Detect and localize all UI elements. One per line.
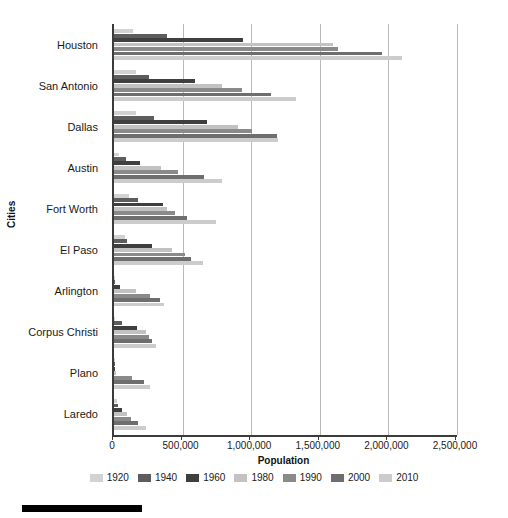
bar-houston-2010	[114, 56, 402, 60]
bar-fort-worth-1960	[114, 203, 163, 207]
bar-laredo-1990	[114, 417, 131, 421]
x-tick-label: 2,000,000	[364, 440, 409, 451]
bar-austin-2000	[114, 175, 204, 179]
y-axis-label-laredo: Laredo	[64, 408, 98, 420]
bar-fort-worth-1940	[114, 198, 138, 202]
bar-houston-2000	[114, 52, 382, 56]
bar-el-paso-1980	[114, 248, 172, 252]
bar-houston-1920	[114, 29, 133, 33]
bar-group-el-paso	[114, 230, 457, 271]
bar-dallas-1920	[114, 111, 136, 115]
y-axis-label-el-paso: El Paso	[60, 244, 98, 256]
bar-austin-1920	[114, 153, 119, 157]
plot-area	[112, 24, 457, 437]
bar-el-paso-1920	[114, 235, 125, 239]
bar-group-austin	[114, 147, 457, 188]
legend-swatch-icon	[283, 474, 296, 482]
bar-plano-1980	[114, 371, 116, 375]
y-axis-label-dallas: Dallas	[67, 121, 98, 133]
chart-legend: 1920194019601980199020002010	[0, 472, 508, 483]
bar-dallas-1940	[114, 116, 154, 120]
bar-fort-worth-1990	[114, 211, 175, 215]
y-axis-label-san-antonio: San Antonio	[39, 80, 98, 92]
x-tick-label: 500,000	[163, 440, 199, 451]
bar-fort-worth-1980	[114, 207, 167, 211]
bar-laredo-1920	[114, 399, 117, 403]
bar-houston-1980	[114, 43, 333, 47]
bar-corpus-christi-1940	[114, 321, 122, 325]
x-axis-ticks: 0500,0001,000,0001,500,0002,000,0002,500…	[0, 435, 508, 449]
x-axis-title: Population	[112, 455, 455, 466]
legend-swatch-icon	[234, 474, 247, 482]
legend-label: 1940	[155, 472, 177, 483]
bar-houston-1960	[114, 38, 243, 42]
bar-houston-1990	[114, 47, 338, 51]
bar-houston-1940	[114, 34, 167, 38]
x-tick-label: 1,500,000	[296, 440, 341, 451]
bar-el-paso-1990	[114, 253, 185, 257]
bar-arlington-2000	[114, 298, 160, 302]
bar-arlington-1990	[114, 294, 150, 298]
legend-label: 1980	[251, 472, 273, 483]
bar-arlington-1920	[114, 276, 115, 280]
bar-group-houston	[114, 24, 457, 65]
legend-item-1990[interactable]: 1990	[283, 472, 322, 483]
bar-corpus-christi-1960	[114, 326, 137, 330]
bar-el-paso-1940	[114, 239, 127, 243]
legend-swatch-icon	[331, 474, 344, 482]
bar-dallas-1960	[114, 120, 207, 124]
x-tick-label: 1,000,000	[227, 440, 272, 451]
bar-group-san-antonio	[114, 65, 457, 106]
legend-item-1960[interactable]: 1960	[186, 472, 225, 483]
bar-san-antonio-1940	[114, 75, 149, 79]
bar-plano-2000	[114, 380, 144, 384]
bar-group-plano	[114, 353, 457, 394]
bar-plano-2010	[114, 385, 150, 389]
legend-label: 2000	[348, 472, 370, 483]
x-tick-label: 2,500,000	[433, 440, 478, 451]
y-axis-label-arlington: Arlington	[55, 285, 98, 297]
bar-austin-2010	[114, 179, 222, 183]
y-axis-label-plano: Plano	[70, 367, 98, 379]
legend-swatch-icon	[186, 474, 199, 482]
bar-laredo-1980	[114, 412, 127, 416]
legend-swatch-icon	[90, 474, 103, 482]
y-axis-label-fort-worth: Fort Worth	[46, 203, 98, 215]
bar-fort-worth-2000	[114, 216, 187, 220]
legend-item-1940[interactable]: 1940	[138, 472, 177, 483]
legend-label: 2010	[396, 472, 418, 483]
population-bar-chart: Cities HoustonSan AntonioDallasAustinFor…	[0, 0, 508, 518]
bar-corpus-christi-2010	[114, 344, 156, 348]
bar-corpus-christi-1920	[114, 317, 115, 321]
y-axis-label-corpus-christi: Corpus Christi	[28, 326, 98, 338]
bar-arlington-2010	[114, 303, 164, 307]
bar-laredo-2010	[114, 426, 146, 430]
bar-san-antonio-1920	[114, 70, 136, 74]
bar-san-antonio-2010	[114, 97, 296, 101]
gridline-2500000	[457, 24, 458, 435]
legend-item-2010[interactable]: 2010	[379, 472, 418, 483]
bottom-rule	[22, 505, 142, 512]
bar-laredo-1940	[114, 404, 118, 408]
bar-group-dallas	[114, 106, 457, 147]
bar-corpus-christi-1990	[114, 335, 149, 339]
bar-san-antonio-1960	[114, 79, 195, 83]
bar-group-laredo	[114, 394, 457, 435]
legend-item-2000[interactable]: 2000	[331, 472, 370, 483]
bar-arlington-1980	[114, 289, 136, 293]
bar-san-antonio-1980	[114, 84, 222, 88]
legend-item-1920[interactable]: 1920	[90, 472, 129, 483]
bar-austin-1940	[114, 157, 126, 161]
bar-laredo-2000	[114, 421, 138, 425]
bar-plano-1920	[114, 358, 115, 362]
bar-austin-1980	[114, 166, 161, 170]
bar-fort-worth-2010	[114, 220, 216, 224]
y-axis-labels: HoustonSan AntonioDallasAustinFort Worth…	[0, 24, 106, 435]
bar-arlington-1940	[114, 280, 115, 284]
bar-austin-1990	[114, 170, 178, 174]
legend-item-1980[interactable]: 1980	[234, 472, 273, 483]
x-tick-label: 0	[109, 440, 115, 451]
bar-austin-1960	[114, 161, 140, 165]
bar-dallas-1980	[114, 125, 238, 129]
bar-corpus-christi-2000	[114, 339, 152, 343]
